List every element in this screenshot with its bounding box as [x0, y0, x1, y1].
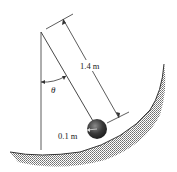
pendulum-diagram: θ 1.4 m 0.1 m	[0, 0, 177, 172]
theta-arrow-left	[41, 80, 45, 84]
dimension-extension-top	[46, 14, 73, 29]
radius-label: 0.1 m	[58, 131, 78, 141]
ground-shading	[10, 64, 165, 167]
pendulum-string	[41, 32, 93, 121]
ground-surface	[10, 64, 164, 155]
theta-label: θ	[51, 85, 56, 95]
length-label: 1.4 m	[80, 61, 100, 71]
